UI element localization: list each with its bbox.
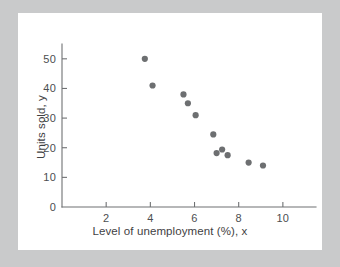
y-axis-title: Units sold, y bbox=[35, 67, 47, 187]
data-point bbox=[193, 112, 199, 118]
data-point bbox=[142, 56, 148, 62]
data-point bbox=[180, 91, 186, 97]
x-tick-label: 6 bbox=[191, 212, 197, 224]
figure-root: 01020304050 246810 Level of unemployment… bbox=[0, 0, 340, 267]
x-tick-marks bbox=[106, 202, 283, 207]
data-point bbox=[149, 82, 155, 88]
x-tick-label: 4 bbox=[147, 212, 153, 224]
data-point bbox=[260, 162, 266, 168]
data-point bbox=[219, 146, 225, 152]
data-point bbox=[185, 100, 191, 106]
x-tick-label: 8 bbox=[236, 212, 242, 224]
x-tick-label: 10 bbox=[277, 212, 290, 224]
y-tick-label: 50 bbox=[28, 53, 56, 65]
y-tick-marks bbox=[62, 59, 67, 178]
data-point bbox=[214, 150, 220, 156]
y-tick-label: 0 bbox=[28, 201, 56, 213]
x-axis-title: Level of unemployment (%), x bbox=[18, 225, 322, 237]
data-point bbox=[210, 131, 216, 137]
scatter-plot: 01020304050 246810 Level of unemployment… bbox=[18, 13, 322, 250]
data-points-group bbox=[142, 56, 266, 169]
x-tick-label: 2 bbox=[103, 212, 109, 224]
axes-group bbox=[62, 44, 316, 207]
data-point bbox=[246, 159, 252, 165]
chart-card: 01020304050 246810 Level of unemployment… bbox=[18, 13, 322, 250]
data-point bbox=[225, 152, 231, 158]
